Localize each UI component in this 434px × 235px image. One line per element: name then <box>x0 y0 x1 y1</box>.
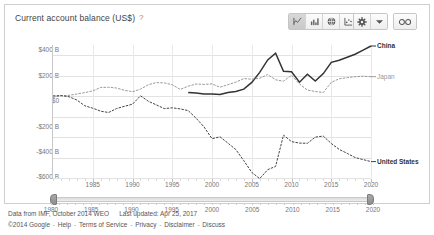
range-minor-tick <box>204 203 205 205</box>
footer-link-disclaimer[interactable]: Disclaimer <box>164 221 194 228</box>
footer: Data from IMF, October 2014 WEOLast upda… <box>8 210 225 228</box>
x-minor-tick <box>228 179 229 181</box>
footer-link-privacy[interactable]: Privacy <box>135 221 156 228</box>
x-minor-tick <box>188 179 189 181</box>
data-source-text: Data from IMF, October 2014 WEO <box>8 210 109 217</box>
range-minor-tick <box>373 203 374 205</box>
footer-link-discuss[interactable]: Discuss <box>202 221 225 228</box>
range-minor-tick <box>51 203 52 205</box>
range-minor-tick <box>301 203 302 205</box>
x-minor-tick <box>339 179 340 181</box>
bar-chart-icon[interactable] <box>306 14 323 29</box>
x-minor-tick <box>236 179 237 181</box>
range-minor-tick <box>309 203 310 205</box>
range-minor-tick <box>260 203 261 205</box>
x-minor-tick <box>204 179 205 181</box>
series-line-united-states <box>53 96 371 179</box>
range-minor-tick <box>164 203 165 205</box>
range-minor-tick <box>357 203 358 205</box>
series-lines <box>53 45 371 178</box>
chevron-down-icon[interactable] <box>371 14 387 29</box>
range-track[interactable] <box>51 197 373 202</box>
gear-icon[interactable] <box>354 14 371 29</box>
range-minor-tick <box>333 203 334 205</box>
range-minor-tick <box>148 203 149 205</box>
footer-separator: - <box>128 221 134 228</box>
series-label-united-states[interactable]: United States <box>377 158 419 165</box>
footer-link-terms-of-service[interactable]: Terms of Service <box>79 221 127 228</box>
footer-links-line: ©2014 Google - Help - Terms of Service -… <box>8 221 225 228</box>
x-minor-tick <box>140 179 141 181</box>
range-tick-label: 2020 <box>358 206 388 213</box>
x-minor-tick <box>220 179 221 181</box>
x-minor-tick <box>164 179 165 181</box>
series-label-japan[interactable]: Japan <box>377 73 395 80</box>
range-minor-tick <box>75 203 76 205</box>
x-minor-tick <box>156 179 157 181</box>
x-minor-tick <box>363 179 364 181</box>
x-minor-tick <box>61 179 62 181</box>
x-minor-tick <box>148 179 149 181</box>
range-minor-tick <box>341 203 342 205</box>
link-toolbar <box>393 13 417 30</box>
range-minor-tick <box>107 203 108 205</box>
time-range-slider[interactable]: 198019851990199520002005201020152020 <box>51 194 373 204</box>
x-gridline <box>371 45 372 178</box>
x-minor-tick <box>347 179 348 181</box>
range-minor-tick <box>172 203 173 205</box>
range-minor-tick <box>220 203 221 205</box>
last-updated-text: Last updated: Apr 25, 2017 <box>119 210 197 217</box>
range-minor-tick <box>365 203 366 205</box>
x-minor-tick <box>125 179 126 181</box>
range-minor-tick <box>276 203 277 205</box>
range-minor-tick <box>325 203 326 205</box>
line-chart-icon[interactable] <box>289 14 306 29</box>
x-minor-tick <box>244 179 245 181</box>
x-tick-label: 2010 <box>277 181 307 188</box>
x-minor-tick <box>315 179 316 181</box>
x-tick-label: 1985 <box>78 181 108 188</box>
footer-separator: - <box>51 221 57 228</box>
x-minor-tick <box>69 179 70 181</box>
x-minor-tick <box>307 179 308 181</box>
public-data-explorer-chart: Current account balance (US$)? <box>0 0 434 235</box>
footer-separator: - <box>72 221 78 228</box>
range-minor-tick <box>349 203 350 205</box>
range-tick-label: 2010 <box>278 206 308 213</box>
question-mark-icon[interactable]: ? <box>139 13 144 22</box>
range-minor-tick <box>252 203 253 205</box>
page-title: Current account balance (US$)? <box>15 13 144 23</box>
range-minor-tick <box>180 203 181 205</box>
x-minor-tick <box>85 179 86 181</box>
range-minor-tick <box>67 203 68 205</box>
range-minor-tick <box>59 203 60 205</box>
x-tick-label: 1990 <box>118 181 148 188</box>
range-minor-tick <box>293 203 294 205</box>
x-minor-tick <box>323 179 324 181</box>
range-minor-tick <box>83 203 84 205</box>
range-minor-tick <box>115 203 116 205</box>
range-tick-label: 2005 <box>237 206 267 213</box>
x-minor-tick <box>196 179 197 181</box>
range-minor-tick <box>188 203 189 205</box>
x-minor-tick <box>53 179 54 181</box>
x-minor-tick <box>117 179 118 181</box>
x-minor-tick <box>109 179 110 181</box>
range-minor-tick <box>91 203 92 205</box>
x-minor-tick <box>101 179 102 181</box>
footer-separator: - <box>196 221 202 228</box>
series-label-china[interactable]: China <box>377 42 395 49</box>
x-minor-tick <box>260 179 261 181</box>
x-minor-tick <box>355 179 356 181</box>
link-icon[interactable] <box>394 14 416 29</box>
map-chart-icon[interactable] <box>323 14 340 29</box>
chart-frame: Current account balance (US$)? <box>4 4 430 204</box>
x-tick-label: 2000 <box>197 181 227 188</box>
settings-toolbar <box>353 13 388 30</box>
x-minor-tick <box>268 179 269 181</box>
x-tick-label: 2015 <box>316 181 346 188</box>
footer-separator: - <box>157 221 163 228</box>
footer-link-help[interactable]: Help <box>58 221 71 228</box>
plot-area <box>53 45 371 178</box>
range-minor-tick <box>228 203 229 205</box>
